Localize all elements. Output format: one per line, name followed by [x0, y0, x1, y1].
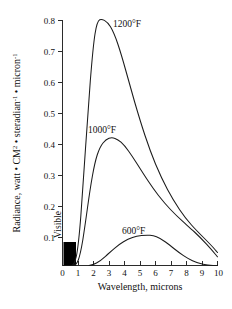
curve-1000f [74, 138, 218, 266]
y-axis-title-main: Radiance, watt • CM [11, 149, 22, 233]
blackbody-radiance-chart: 0.8 0.7 0.6 0.5 0.4 0.3 0.2 0.1 0 1 2 3 … [0, 0, 232, 309]
x-tick-label-9: 9 [200, 268, 205, 278]
y-tick-label-06: 0.6 [44, 78, 56, 88]
x-tick-label-2: 2 [91, 268, 96, 278]
x-axis-title: Wavelength, microns [98, 281, 183, 292]
chart-canvas: 0.8 0.7 0.6 0.5 0.4 0.3 0.2 0.1 0 1 2 3 … [0, 0, 232, 309]
x-tick-label-3: 3 [107, 268, 112, 278]
x-tick-label-6: 6 [153, 268, 158, 278]
visible-band-label: Visible [53, 211, 63, 238]
curve-label-1200f: 1200°F [113, 19, 141, 29]
y-tick-label-08: 0.8 [44, 16, 56, 26]
y-axis-title-mid: • steradian [11, 101, 22, 146]
x-tick-label-1: 1 [76, 268, 81, 278]
x-tick-label-10: 10 [214, 268, 224, 278]
curve-label-1000f: 1000°F [88, 125, 116, 135]
x-tick-label-4: 4 [122, 268, 127, 278]
x-tick-label-5: 5 [138, 268, 143, 278]
y-tick-label-05: 0.5 [44, 109, 56, 119]
x-tick-label-0: 0 [60, 268, 65, 278]
y-axis-title-micron-exponent: -1 [11, 53, 18, 58]
y-tick-label-07: 0.7 [44, 47, 56, 57]
x-tick-label-7: 7 [169, 268, 174, 278]
y-axis-ticks [58, 21, 63, 238]
y-tick-label-02: 0.2 [44, 202, 55, 212]
curve-600f [89, 235, 218, 265]
x-tick-label-8: 8 [184, 268, 189, 278]
y-axis-title-tail: • micron [11, 59, 22, 96]
curve-label-600f: 600°F [122, 226, 145, 236]
y-tick-label-03: 0.3 [44, 171, 56, 181]
y-axis-title: Radiance, watt • CM2 • steradian-1 • mic… [11, 53, 23, 232]
y-tick-label-04: 0.4 [44, 140, 56, 150]
